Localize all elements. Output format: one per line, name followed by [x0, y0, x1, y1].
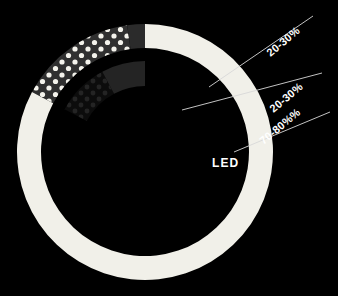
led-label: LED — [212, 156, 239, 170]
leader-line-1 — [209, 16, 313, 87]
infographic-canvas: LED 20-30% 20-30% 70-80%% — [0, 0, 338, 296]
